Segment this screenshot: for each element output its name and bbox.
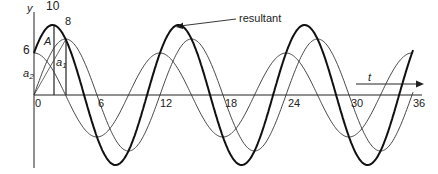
t-tick-30: 30	[351, 98, 363, 109]
a1-peak-value: 8	[65, 16, 71, 27]
t-tick-12: 12	[160, 98, 172, 109]
t-arrow-head-icon	[416, 81, 424, 88]
t-tick-18: 18	[225, 98, 237, 109]
t-tick-36: 36	[413, 98, 425, 109]
a2-start-value: 6	[23, 44, 30, 56]
a1-label: a1	[56, 57, 67, 70]
resultant-peak-value: 10	[46, 0, 59, 12]
resultant-label: resultant	[239, 13, 281, 24]
y-axis-label: y	[27, 3, 33, 14]
t-tick-0: 0	[35, 98, 41, 109]
t-tick-6: 6	[98, 98, 104, 109]
resultant-pointer	[180, 19, 236, 26]
a2-label: a2	[23, 68, 34, 81]
t-axis-label: t	[368, 72, 371, 83]
amplitude-label: A	[44, 36, 51, 47]
t-tick-24: 24	[288, 98, 300, 109]
axes	[34, 12, 424, 168]
phasor-sum-diagram: y 10 8 6 A a1 a2 resultant t 0 6 12 18 2…	[0, 0, 438, 174]
